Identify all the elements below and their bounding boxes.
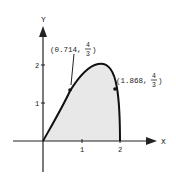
y-axis-label: Y	[41, 15, 46, 24]
x-tick-label-2: 2	[118, 146, 122, 154]
y-tick-label-2: 2	[35, 62, 39, 70]
annotation-left-coord: (0.714,	[50, 46, 82, 54]
y-axis-arrow-icon	[39, 26, 47, 37]
annotation-left-denominator: 3	[86, 51, 90, 58]
x-tick-label-1: 1	[80, 146, 84, 154]
x-axis-arrow-icon	[146, 137, 157, 145]
point-marker-right	[113, 87, 117, 91]
annotation-left-numerator: 4	[86, 42, 90, 49]
y-tick-label-1: 1	[35, 100, 39, 108]
x-axis-label: X	[161, 137, 166, 146]
annotation-right-numerator: 4	[152, 73, 156, 80]
point-marker-left	[68, 88, 72, 92]
annotation-left-close: )	[92, 46, 97, 54]
annotation-right-close: )	[158, 77, 163, 85]
annotation-right-denominator: 3	[152, 82, 156, 89]
chart-plot: Y X 1 2 1 2 (0.714, 4 3 ) (1.868, 4 3 )	[0, 0, 176, 182]
annotation-right-coord: (1.868,	[116, 77, 148, 85]
annotation-leader-line	[71, 54, 74, 85]
